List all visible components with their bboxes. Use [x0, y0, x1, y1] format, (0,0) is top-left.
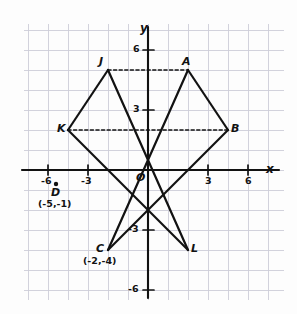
- coord-label-C: (-2,-4): [83, 256, 116, 266]
- y-axis-label: y: [140, 22, 148, 34]
- axis-lines: [22, 27, 279, 298]
- coordinate-plane: [0, 0, 297, 314]
- point-label-B: B: [231, 123, 239, 134]
- y-tick-label-neg3: -3: [128, 224, 139, 234]
- coord-label-D: (-5,-1): [38, 199, 71, 209]
- grid-lines: [24, 24, 284, 300]
- point-label-J: J: [99, 56, 103, 67]
- x-axis-label: x: [266, 163, 274, 175]
- segment-A-B: [188, 70, 228, 130]
- x-tick-label-neg3: -3: [81, 176, 92, 186]
- segment-B-C: [108, 130, 228, 250]
- origin-label: O: [136, 172, 145, 183]
- y-tick-label-neg6: -6: [128, 284, 139, 294]
- y-tick-label-pos3: 3: [133, 104, 140, 114]
- point-label-D: D: [51, 187, 60, 198]
- point-label-C: C: [96, 243, 104, 254]
- graph-figure: J A B K C L D (-5,-1) (-2,-4) O x y -6 -…: [0, 0, 297, 314]
- y-tick-label-pos6: 6: [133, 44, 140, 54]
- point-label-K: K: [57, 123, 66, 134]
- point-label-A: A: [182, 56, 191, 67]
- x-tick-label-pos6: 6: [245, 176, 252, 186]
- x-tick-label-neg6: -6: [41, 176, 52, 186]
- x-tick-label-pos3: 3: [205, 176, 212, 186]
- segment-J-K: [68, 70, 108, 130]
- point-label-L: L: [191, 243, 198, 254]
